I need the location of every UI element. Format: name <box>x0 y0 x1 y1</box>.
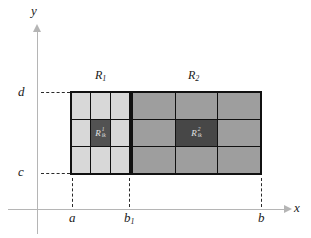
grid-cell <box>111 93 129 119</box>
x-axis-label: x <box>294 201 300 214</box>
grid-cell <box>91 93 109 119</box>
dashed-guide-d <box>41 92 70 93</box>
grid-cell <box>72 147 90 173</box>
grid-cell <box>133 120 175 146</box>
dashed-guide-c <box>41 173 70 174</box>
grid-cell <box>218 93 260 119</box>
highlight-subrectangle-r2: R2ik <box>176 120 218 146</box>
dashed-guide-a <box>72 178 73 207</box>
y-axis-line <box>37 28 38 234</box>
y-axis-arrow-icon <box>33 24 41 32</box>
x-axis-arrow-icon <box>284 205 292 213</box>
y-tick-label-c: c <box>18 165 24 178</box>
grid-cell <box>218 147 260 173</box>
subrectangle-r1-label: R1ik <box>95 127 105 139</box>
region-r2-title: R2 <box>188 69 199 83</box>
grid-cell <box>176 147 218 173</box>
grid-cell <box>72 120 90 146</box>
grid-cell <box>91 147 109 173</box>
subrectangle-r2-label: R2ik <box>191 127 201 139</box>
region-r1-grid: R1ik <box>70 91 131 175</box>
region-r2-grid: R2ik <box>131 91 262 175</box>
x-axis-line <box>8 209 287 210</box>
dashed-guide-b1 <box>129 178 130 207</box>
grid-cell <box>111 120 129 146</box>
double-integral-regions-diagram: y x d c a b1 b R1 R2 R1ik R2ik <box>0 0 311 238</box>
grid-cell <box>111 147 129 173</box>
grid-cell <box>72 93 90 119</box>
x-tick-label-a: a <box>69 211 76 224</box>
x-tick-label-b1: b1 <box>124 211 135 226</box>
grid-cell <box>218 120 260 146</box>
y-tick-label-d: d <box>18 85 25 98</box>
grid-cell <box>133 93 175 119</box>
highlight-subrectangle-r1: R1ik <box>91 120 109 146</box>
y-axis-label: y <box>31 4 37 17</box>
grid-cell <box>176 93 218 119</box>
x-tick-label-b: b <box>258 211 265 224</box>
dashed-guide-b <box>261 178 262 207</box>
grid-cell <box>133 147 175 173</box>
region-r1-title: R1 <box>95 69 106 83</box>
